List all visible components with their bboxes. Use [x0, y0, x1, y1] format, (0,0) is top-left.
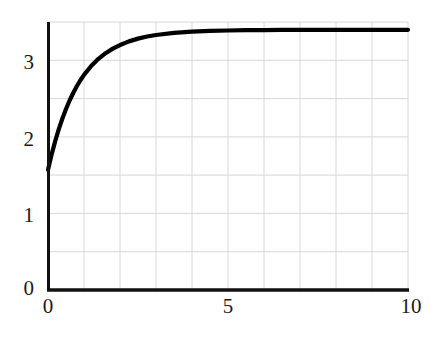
y-tick-label-2: 2	[8, 129, 34, 150]
chart-figure: 0 1 2 3 0 5 10	[0, 0, 439, 338]
x-tick-label-0: 0	[28, 296, 68, 317]
x-tick-label-5: 5	[208, 296, 248, 317]
x-tick-label-10: 10	[391, 296, 431, 317]
y-tick-label-3: 3	[8, 52, 34, 73]
plot-canvas	[0, 0, 439, 338]
y-tick-label-1: 1	[8, 205, 34, 226]
